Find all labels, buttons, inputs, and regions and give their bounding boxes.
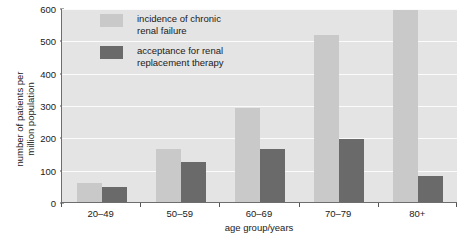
bar xyxy=(77,183,102,202)
bar xyxy=(156,149,181,202)
legend-label: acceptance for renal replacement therapy xyxy=(137,45,224,68)
legend-swatch xyxy=(100,46,123,59)
x-axis-tick-mark xyxy=(456,203,457,207)
y-axis-tick-label: 200 xyxy=(22,133,56,144)
bar xyxy=(418,176,443,202)
bar xyxy=(181,162,206,202)
y-axis-tick-label: 300 xyxy=(22,101,56,112)
x-axis-tick-label: 20–49 xyxy=(66,208,136,222)
x-axis-tick-mark xyxy=(378,203,379,207)
chart-legend: incidence of chronic renal failureaccept… xyxy=(100,13,350,77)
y-axis-tick-label: 0 xyxy=(22,198,56,209)
x-axis-title: age group/years xyxy=(61,222,457,233)
x-axis-tick-labels: 20–4950–5960–6970–7980+ xyxy=(61,208,457,222)
legend-swatch xyxy=(100,14,123,27)
chart-figure: number of patients per million populatio… xyxy=(0,0,464,240)
bar xyxy=(339,139,364,202)
y-axis-tick-label: 100 xyxy=(22,165,56,176)
bar xyxy=(393,10,418,202)
legend-label: incidence of chronic renal failure xyxy=(137,13,221,36)
x-axis-tick-label: 60–69 xyxy=(224,208,294,222)
x-axis-tick-mark xyxy=(140,203,141,207)
x-axis-tick-mark xyxy=(299,203,300,207)
plot-area: incidence of chronic renal failureaccept… xyxy=(61,9,457,203)
bar-group xyxy=(393,9,443,202)
legend-item: acceptance for renal replacement therapy xyxy=(100,45,350,68)
x-axis-tick-mark xyxy=(219,203,220,207)
bar xyxy=(102,187,127,202)
y-axis-tick-label: 600 xyxy=(22,4,56,15)
x-axis-tick-label: 50–59 xyxy=(145,208,215,222)
y-axis-tick-labels: 0100200300400500600 xyxy=(22,9,56,203)
x-axis-tick-label: 70–79 xyxy=(303,208,373,222)
x-axis-tick-label: 80+ xyxy=(382,208,452,222)
y-axis-tick-label: 400 xyxy=(22,68,56,79)
legend-item: incidence of chronic renal failure xyxy=(100,13,350,36)
x-axis-tick-mark xyxy=(61,203,62,207)
bar xyxy=(235,108,260,202)
bar xyxy=(260,149,285,202)
y-axis-tick-label: 500 xyxy=(22,36,56,47)
